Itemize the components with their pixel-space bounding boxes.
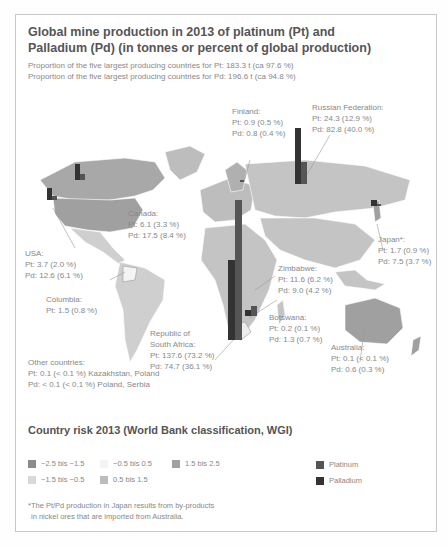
figure-subtitle: Proportion of the five largest producing… (28, 60, 296, 82)
label-other-countries: Other countries: Pt: 0.1 (< 0.1 %) Kazak… (28, 357, 159, 390)
legend-platinum: Platinum (316, 460, 358, 469)
legend-risk-4: −1.5 bis −0.5 (28, 475, 84, 484)
legend-risk-2: −0.5 bis 0.5 (100, 459, 152, 468)
legend-risk-3: 1.5 bis 2.5 (172, 459, 220, 468)
label-russia: Russian Federation: Pt: 24.3 (12.9 %) Pd… (312, 102, 384, 135)
label-finland: Finland: Pt: 0.9 (0.5 %) Pd: 0.8 (0.4 %) (232, 106, 285, 139)
label-south-africa: Republic of South Africa: Pt: 137.6 (73.… (150, 328, 214, 372)
legend-swatch (28, 460, 36, 468)
title-line-2: Palladium (Pd) (in tonnes or percent of … (28, 40, 428, 56)
legend-palladium: Palladium (316, 476, 362, 485)
label-columbia: Columbia: Pt: 1.5 (0.8 %) (46, 294, 97, 316)
label-australia: Australia: Pt: 0.1 (< 0.1 %) Pd: 0.6 (0.… (331, 342, 389, 375)
legend-swatch (316, 461, 324, 469)
label-zimbabwe: Zimbabwe: Pt: 11.6 (6.2 %) Pd: 9.0 (4.2 … (278, 263, 333, 296)
label-usa: USA: Pt: 3.7 (2.0 %) Pd: 12.6 (6.1 %) (25, 248, 83, 281)
legend-risk-5: 0.5 bis 1.5 (100, 475, 148, 484)
legend-swatch (316, 477, 324, 485)
legend-risk-1: −2.5 bis −1.5 (28, 459, 84, 468)
legend-swatch (100, 476, 108, 484)
footnote: *The Pt/Pd production in Japan results f… (28, 500, 214, 522)
label-botswana: Botswana: Pt: 0.2 (0.1 %) Pd: 1.3 (0.7 %… (269, 312, 322, 345)
title-line-1: Global mine production in 2013 of platin… (28, 24, 428, 40)
legend-swatch (172, 460, 180, 468)
figure-title: Global mine production in 2013 of platin… (28, 24, 428, 56)
subtitle-pd: Proportion of the five largest producing… (28, 71, 296, 82)
country-risk-title: Country risk 2013 (World Bank classifica… (28, 424, 292, 436)
subtitle-pt: Proportion of the five largest producing… (28, 60, 296, 71)
legend-swatch (28, 476, 36, 484)
label-canada: Canada: Pt: 6.1 (3.3 %) Pd: 17.5 (8.4 %) (128, 208, 186, 241)
legend-swatch (100, 460, 108, 468)
label-japan: Japan*: Pt: 1.7 (0.9 %) Pd: 7.5 (3.7 %) (378, 234, 431, 267)
